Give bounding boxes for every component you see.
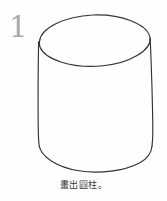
cylinder-figure xyxy=(0,0,167,180)
cylinder-right-wall xyxy=(150,38,153,146)
cylinder-bottom-arc xyxy=(39,146,152,172)
cylinder-top-ellipse xyxy=(39,15,150,66)
cylinder-drawing xyxy=(0,0,167,180)
cylinder-left-wall xyxy=(38,42,39,147)
exercise-caption: 畫出圓柱。 xyxy=(0,179,167,192)
worksheet-page: 1 畫出圓柱。 xyxy=(0,0,167,201)
